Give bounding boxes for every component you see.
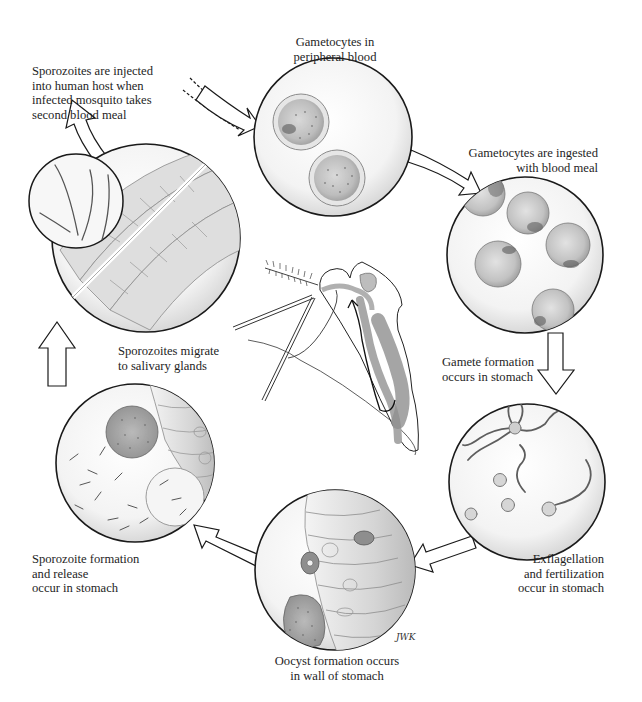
circle-gametocytes-ingested — [447, 172, 603, 333]
circle-exflagellation-fertilization — [449, 388, 605, 560]
red-blood-cell — [507, 192, 549, 234]
red-blood-cell — [546, 223, 590, 268]
arrow-into-gametocytes-circle — [183, 78, 260, 136]
label-exflagellation-fertilization: Exflagellation and fertilization occur i… — [480, 552, 604, 596]
mature-oocyst — [106, 406, 158, 458]
label-oocyst-formation: Oocyst formation occurs in wall of stoma… — [262, 654, 412, 683]
label-gametocytes-peripheral-blood: Gametocytes in peripheral blood — [270, 35, 400, 64]
label-gamete-formation: Gamete formation occurs in stomach — [442, 355, 534, 384]
red-blood-cell — [475, 241, 521, 287]
antenna — [265, 268, 318, 285]
ookinete-penetrating — [301, 552, 319, 574]
oocyst — [283, 595, 325, 648]
arrow-to-oocyst-circle — [410, 536, 476, 572]
arrow-to-salivary-gland-circle — [39, 322, 75, 386]
label-sporozoites-migrate: Sporozoites migrate to salivary glands — [118, 344, 219, 373]
circle-salivary-gland — [29, 144, 240, 332]
label-sporozoites-injected: Sporozoites are injected into human host… — [32, 64, 153, 122]
label-sporozoite-formation: Sporozoite formation and release occur i… — [32, 552, 139, 596]
mosquito-anatomy — [233, 260, 418, 455]
arrow-to-sporozoite-formation-circle — [194, 525, 262, 566]
gametocyte-cell — [273, 94, 329, 150]
ruptured-oocyst — [146, 468, 204, 526]
label-gametocytes-ingested: Gametocytes are ingested with blood meal — [420, 146, 598, 175]
red-blood-cell — [532, 289, 574, 331]
arrow-to-gamete-formation-circle — [538, 333, 574, 394]
gametocyte-cell — [309, 150, 365, 206]
ookinete — [354, 531, 374, 545]
circle-gametocytes-peripheral-blood — [254, 58, 412, 216]
artist-signature: JWK — [394, 632, 417, 642]
inset-sporozoites — [29, 154, 123, 248]
circle-sporozoite-formation — [56, 384, 220, 542]
